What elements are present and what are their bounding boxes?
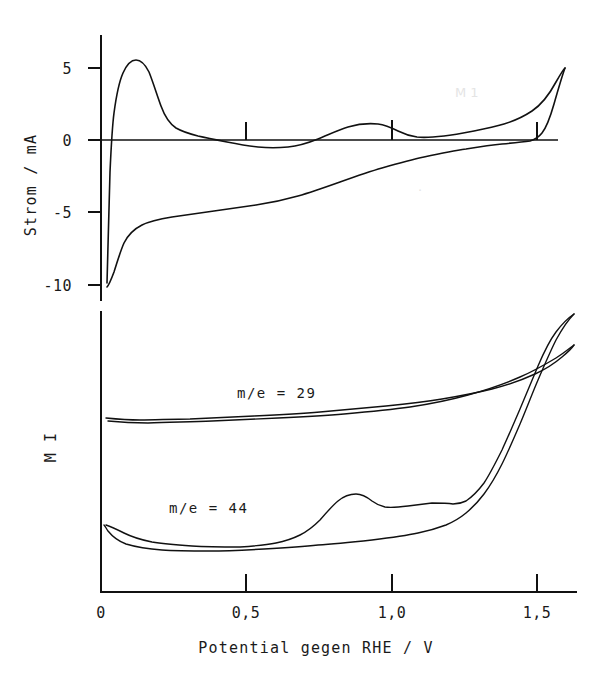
cv-cathodic-sweep	[107, 68, 565, 287]
x-axis-title: Potential gegen RHE / V	[198, 639, 433, 657]
ms-y-axis-title: M I	[42, 432, 60, 463]
xlabel-0_5: 0,5	[232, 604, 261, 622]
xlabel-1_0: 1,0	[378, 604, 407, 622]
series-label-mass-29: m/e = 29	[237, 385, 316, 401]
series-label-mass-44: m/e = 44	[169, 500, 248, 516]
dems-figure: 5 0 -5 -10 Strom / mA M 1 . 0	[0, 0, 608, 675]
ms-panel: 0 0,5 1,0 1,5 M I m/e = 29 m/e = 44	[42, 312, 576, 622]
xlabel-0: 0	[96, 604, 106, 622]
cv-ylabel-0: 0	[62, 132, 72, 150]
ms29-cathodic-trace	[108, 345, 574, 423]
cv-ylabel-minus10: -10	[43, 277, 72, 295]
cv-panel: 5 0 -5 -10 Strom / mA M 1 .	[22, 36, 565, 300]
ms29-anodic-trace	[106, 345, 574, 420]
scan-artifact-speck: .	[418, 179, 422, 194]
xlabel-1_5: 1,5	[523, 604, 552, 622]
scan-artifact-smudge: M 1	[455, 85, 479, 100]
figure-canvas: 5 0 -5 -10 Strom / mA M 1 . 0	[0, 0, 608, 675]
cv-anodic-sweep	[107, 60, 565, 283]
cv-y-axis-title: Strom / mA	[22, 134, 40, 236]
cv-ylabel-5: 5	[62, 60, 72, 78]
cv-ylabel-minus5: -5	[53, 204, 72, 222]
